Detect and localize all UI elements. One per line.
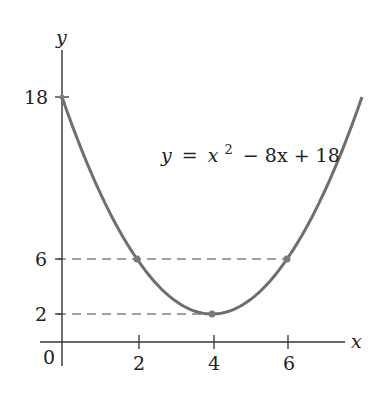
x-tick-label-4: 4 [208,352,220,374]
y-tick-label-6: 6 [35,248,47,270]
parabola-chart: y x 0 2 4 6 18 6 2 y = x 2 − 8x + 18 [0,0,387,396]
eq-rest: − 8x + 18 [243,144,340,166]
y-axis-label: y [55,26,67,48]
eq-lhs: y [160,144,172,166]
x-tick-label-6: 6 [283,352,295,374]
x-axis-label: x [351,330,362,352]
eq-equals: = [182,144,198,166]
eq-exponent: 2 [225,142,233,157]
x-tick-label-2: 2 [133,352,145,374]
eq-x: x [208,144,219,166]
equation-label: y = x 2 − 8x + 18 [160,136,340,166]
y-tick-label-2: 2 [35,303,47,325]
parabola-curve [62,97,362,314]
marked-points [60,95,291,318]
point-2-6 [134,256,141,263]
point-6-6 [284,256,291,263]
point-0-18 [60,95,65,100]
point-4-2 [209,311,216,318]
origin-label: 0 [43,346,55,368]
y-tick-label-18: 18 [24,86,48,108]
